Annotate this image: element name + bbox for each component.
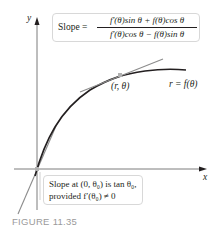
slope-formula-box: Slope = f′(θ)sin θ + f(θ)cos θ f′(θ)cos … [52, 13, 200, 42]
origin-marker [35, 167, 39, 171]
x-axis-label: x [203, 172, 207, 182]
slope-numerator: f′(θ)sin θ + f(θ)cos θ [97, 15, 197, 28]
origin-note-line2: provided f′(θ₀) ≠ 0 [49, 190, 142, 202]
point-label: (r, θ) [111, 81, 129, 91]
figure-caption: FIGURE 11.35 [12, 216, 77, 227]
origin-note-line1: Slope at (0, θ₀) is tan θ₀, [49, 178, 142, 190]
x-axis-arrow-icon [199, 167, 207, 172]
curve-label: r = f(θ) [169, 79, 198, 89]
y-axis-arrow-icon [35, 17, 40, 25]
point-marker [118, 73, 122, 77]
slope-prefix: Slope = [58, 22, 87, 32]
slope-denominator: f′(θ)cos θ − f(θ)sin θ [97, 28, 197, 40]
slope-fraction: f′(θ)sin θ + f(θ)cos θ f′(θ)cos θ − f(θ)… [97, 15, 197, 40]
y-axis-label: y [27, 13, 31, 23]
origin-slope-note: Slope at (0, θ₀) is tan θ₀, provided f′(… [43, 175, 143, 205]
